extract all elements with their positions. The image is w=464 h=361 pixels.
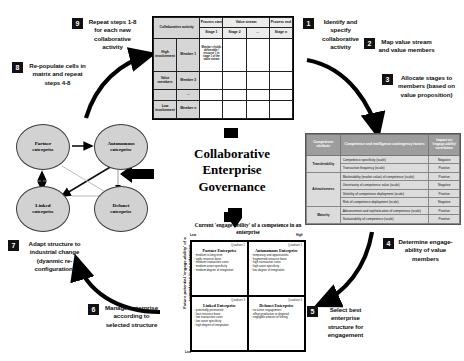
quadrant-number: Quadrant 3 — [194, 299, 245, 302]
vsm-cell[interactable] — [200, 71, 223, 89]
step-9-number: 9 — [72, 18, 83, 29]
vsm-axis-spacer — [154, 90, 177, 100]
vsm-member-2: Member 2 — [177, 71, 200, 89]
step-8: 8 Re-populate cells in matrix and repeat… — [12, 62, 90, 87]
comp-impact: Negative — [429, 181, 460, 190]
step-6-number: 6 — [88, 304, 99, 315]
step-5-label: Select best enterprise structure for eng… — [320, 306, 371, 339]
node-label: Partnerenterprise — [32, 141, 54, 153]
node-linked-enterprise[interactable]: Linkedenterprise — [16, 186, 70, 232]
comp-factor: Volatility of competence deployment (sca… — [340, 189, 429, 198]
comp-impact: Positive — [429, 206, 460, 215]
node-label: Linkedenterprise — [32, 203, 54, 215]
node-label: Autonomousenterprise — [107, 141, 134, 153]
vsm-cell[interactable] — [246, 71, 269, 89]
node-defunct-enterprise[interactable]: Defunctenterprise — [94, 186, 148, 232]
vsm-cell[interactable] — [269, 90, 292, 100]
quadrant-number: Quadrant 1 — [251, 244, 302, 247]
step-8-label: Re-populate cells in matrix and repeat s… — [25, 62, 90, 87]
step-2: 2 Map value stream and value members — [364, 38, 436, 55]
comp-factor: Uncertainty of competence value (scale) — [340, 181, 429, 190]
engage-title-line-1: Current 'engage-ability' of a competence — [195, 222, 289, 228]
comp-factor: Marketability (market value) of competen… — [340, 172, 429, 181]
step-7-label: Adapt structure to industrial change (dy… — [21, 240, 88, 273]
arc-top-right — [307, 60, 378, 135]
vsm-axis-mid: Value members — [154, 71, 177, 89]
node-autonomous-enterprise[interactable]: Autonomousenterprise — [94, 124, 148, 170]
quadrant-defunct-enterprise[interactable]: Quadrant 4 Defunct Enterprise · no activ… — [248, 296, 305, 351]
vsm-cell[interactable] — [246, 90, 269, 100]
step-3: 3 Allocate stages to members (based on v… — [382, 74, 458, 99]
vsm-member-dots: ... — [177, 90, 200, 100]
engage-ability-matrix: Current 'engage-ability' of a competence… — [176, 222, 306, 360]
engage-matrix-title: Current 'engage-ability' of a competence… — [190, 222, 306, 236]
vsm-value-stream: Value stream — [223, 18, 269, 28]
vsm-cell[interactable] — [269, 71, 292, 89]
node-partner-enterprise[interactable]: Partnerenterprise — [16, 124, 70, 170]
vsm-sample-cell[interactable]: Member x holds deliverable / resource 1 … — [200, 38, 223, 71]
vsm-cell[interactable] — [269, 100, 292, 118]
step-8-number: 8 — [12, 62, 23, 73]
quadrant-partner-enterprise[interactable]: Quadrant 2 Partner Enterprise · medium t… — [191, 241, 248, 296]
comp-impact: Negative — [429, 198, 460, 207]
vsm-cell[interactable] — [246, 38, 269, 71]
comp-attr-attractiveness: Attractiveness — [307, 172, 341, 206]
quadrant-item: · medium degree of integration — [194, 269, 245, 273]
comp-impact: Positive — [429, 215, 460, 224]
vsm-corner-label: Collaborative activity — [154, 18, 200, 39]
table-row: Maturity Advancement and sophistication … — [307, 206, 460, 215]
comp-factor: Competence specificity (scale) — [340, 155, 429, 164]
comp-attr-maturity: Maturity — [307, 206, 341, 223]
title-line-2: Enterprise — [152, 162, 312, 178]
vsm-axis-high: High involvement — [154, 38, 177, 71]
quadrant-item: · high degree of integration — [194, 324, 245, 328]
vsm-cell[interactable] — [223, 90, 246, 100]
vsm-cell[interactable] — [200, 90, 223, 100]
engage-axis-low-left: Low — [190, 233, 196, 237]
comp-header-impact: Impact on 'engage-ability' correlation — [429, 135, 460, 156]
comp-factor: Sustainability of competence (scale) — [340, 215, 429, 224]
quadrant-item: · low degree of integration — [251, 269, 302, 273]
vsm-process-start: Process start — [200, 18, 223, 28]
vsm-cell[interactable] — [200, 100, 223, 118]
step-4-label: Determine engage-ability of value member… — [396, 238, 455, 263]
comp-impact: Positive — [429, 164, 460, 173]
step-4-number: 4 — [383, 238, 394, 249]
diagram-canvas: Collaborative Enterprise Governance 1 Id… — [0, 0, 464, 361]
vsm-cell[interactable] — [269, 38, 292, 71]
vsm-cell[interactable] — [246, 100, 269, 118]
step-7: 7 Adapt structure to industrial change (… — [8, 240, 88, 273]
table-row: Attractiveness Marketability (market val… — [307, 172, 460, 181]
step-3-label: Allocate stages to members (based on val… — [395, 74, 458, 99]
vsm-stage-1: Stage 1 — [200, 28, 223, 38]
arc-right-bottom — [318, 232, 372, 305]
comp-factor: Advancement and sophistication of compet… — [340, 206, 429, 215]
quadrant-linked-enterprise[interactable]: Quadrant 3 Linked Enterprise · potential… — [191, 296, 248, 351]
comp-impact: Positive — [429, 189, 460, 198]
comp-impact: Negative — [429, 155, 460, 164]
vsm-stage-2: Stage 2 — [223, 28, 246, 38]
step-4: 4 Determine engage-ability of value memb… — [383, 238, 455, 263]
step-6: 6 Manage enterprise according to selecte… — [88, 304, 162, 329]
table-row: Transferability Competence specificity (… — [307, 155, 460, 164]
step-6-label: Manage enterprise according to selected … — [101, 304, 162, 329]
title-line-1: Collaborative — [152, 146, 312, 162]
comp-factor: Transaction frequency (scale) — [340, 164, 429, 173]
vsm-cell[interactable] — [223, 38, 246, 71]
vsm-member-n: Member n — [177, 100, 200, 118]
quadrant-autonomous-enterprise[interactable]: Quadrant 1 Autonomous Enterprise · tempo… — [248, 241, 305, 296]
vsm-member-1: Member 1 — [177, 38, 200, 71]
competence-attributes-table: Competence attribute Competence and inte… — [305, 133, 461, 225]
step-2-number: 2 — [364, 38, 375, 49]
vsm-cell[interactable] — [223, 100, 246, 118]
centre-arrow-up — [224, 128, 238, 138]
step-1-label: Identify and specify collaborative activ… — [316, 18, 365, 51]
node-label: Defunctenterprise — [110, 203, 132, 215]
step-1-number: 1 — [303, 18, 314, 29]
title-line-3: Governance — [152, 179, 312, 195]
page-title: Collaborative Enterprise Governance — [152, 146, 312, 195]
enterprise-structure-network: Partnerenterprise Autonomousenterprise L… — [14, 122, 150, 234]
engage-axis-high-right: High — [296, 233, 303, 237]
vsm-cell[interactable] — [223, 71, 246, 89]
step-5: 5 Select best enterprise structure for e… — [307, 306, 371, 339]
